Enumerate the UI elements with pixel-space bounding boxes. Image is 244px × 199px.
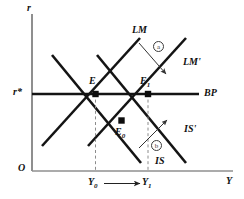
point-label-E0-text: E <box>115 126 122 137</box>
point-label-E-text: E <box>89 75 96 86</box>
x-axis-label: Y <box>226 176 232 186</box>
diagram-canvas <box>0 0 244 199</box>
is-prime-curve-label: IS' <box>184 124 196 134</box>
point-label-E1-sub: 1 <box>147 81 151 89</box>
x-tick-label-y1: Y1 <box>142 177 152 190</box>
point-marker-E1 <box>145 91 151 97</box>
point-marker-E <box>92 91 98 97</box>
lm-curve-label: LM <box>132 25 147 35</box>
annotation-marker-a: a <box>153 41 164 52</box>
point-marker-E0 <box>118 117 124 123</box>
lm-prime-curve <box>88 38 186 146</box>
origin-label: O <box>18 163 25 173</box>
point-label-E1: E1 <box>140 76 150 89</box>
axes-group <box>32 14 233 171</box>
y-axis-label: r <box>27 3 31 13</box>
bp-curve-label: BP <box>204 88 217 98</box>
y-tick-label-rstar: r* <box>13 87 22 97</box>
point-label-E: E <box>89 76 96 86</box>
point-label-E0: E0 <box>115 127 125 140</box>
lm-prime-curve-label: LM' <box>183 57 201 67</box>
is-curve <box>52 55 141 163</box>
is-curve-label: IS <box>155 156 164 166</box>
x-tick-label-y1-sub: 1 <box>148 182 152 190</box>
is-lm-bp-figure: r Y O r* LM LM' IS IS' BP E E1 E0 a b Y0… <box>0 0 244 199</box>
x-tick-label-y0-sub: 0 <box>94 182 98 190</box>
lm-curve <box>42 38 140 146</box>
x-tick-label-y0: Y0 <box>88 177 98 190</box>
point-label-E1-text: E <box>140 75 147 86</box>
annotation-marker-b: b <box>151 140 162 151</box>
point-label-E0-sub: 0 <box>122 132 126 140</box>
